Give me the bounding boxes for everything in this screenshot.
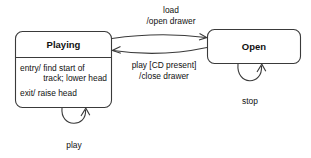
transition-open-to-playing-label-line-2: /close drawer	[139, 71, 189, 81]
state-playing[interactable]: Playing entry/ find start of track; lowe…	[16, 32, 112, 108]
transition-playing-self-loop-line	[62, 108, 86, 123]
state-playing-entry-line-1: entry/ find start of	[20, 63, 85, 73]
state-open-title: Open	[242, 41, 266, 52]
transition-playing-self-loop[interactable]: play	[62, 108, 90, 150]
transition-playing-self-loop-label: play	[66, 140, 82, 150]
transition-playing-to-open-label-line-1: load	[163, 5, 179, 15]
transition-open-self-loop[interactable]: stop	[238, 64, 266, 106]
diagram-canvas: Playing entry/ find start of track; lowe…	[0, 0, 311, 158]
transition-open-to-playing-arrowhead	[112, 47, 121, 54]
state-playing-title: Playing	[47, 39, 81, 50]
transition-open-to-playing-line	[113, 48, 207, 54]
state-playing-entry-line-2: track; lower head	[43, 73, 107, 83]
transition-open-to-playing-label-line-1: play [CD present]	[132, 60, 197, 70]
state-diagram: Playing entry/ find start of track; lowe…	[0, 0, 311, 158]
state-open[interactable]: Open	[208, 30, 301, 64]
transition-open-to-playing[interactable]: play [CD present] /close drawer	[112, 47, 207, 81]
transition-playing-to-open[interactable]: load /open drawer	[112, 5, 207, 40]
state-playing-exit-line: exit/ raise head	[20, 88, 77, 98]
transition-open-self-loop-line	[238, 64, 262, 81]
transition-playing-to-open-line	[112, 35, 206, 39]
transition-open-self-loop-label: stop	[242, 96, 258, 106]
transition-playing-to-open-label-line-2: /open drawer	[147, 16, 196, 26]
